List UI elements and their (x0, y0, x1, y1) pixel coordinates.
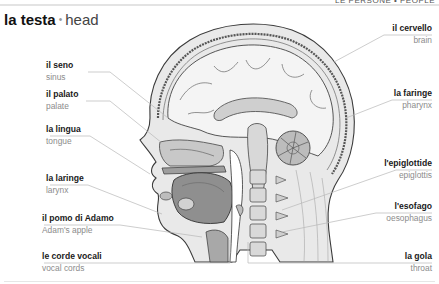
label-english: brain (392, 34, 432, 46)
label-tongue: la lingua tongue (46, 123, 81, 147)
label-italian: il cervello (392, 22, 432, 34)
label-italian: il pomo di Adamo (42, 212, 114, 224)
label-throat: la gola throat (405, 250, 432, 274)
label-adams-apple: il pomo di Adamo Adam's apple (42, 212, 114, 236)
label-italian: il seno (46, 59, 73, 71)
label-brain: il cervello brain (392, 22, 432, 46)
label-italian: le corde vocali (42, 250, 102, 262)
label-italian: il palato (46, 88, 78, 100)
label-palate: il palato palate (46, 88, 78, 112)
label-italian: la lingua (46, 123, 81, 135)
label-english: throat (405, 262, 432, 274)
label-english: pharynx (394, 99, 432, 111)
label-italian: l'esofago (386, 200, 432, 212)
bottom-rule (4, 281, 435, 282)
label-english: sinus (46, 71, 73, 83)
label-epiglottis: l'epiglottide epiglottis (384, 157, 432, 181)
label-oesophagus: l'esofago oesophagus (386, 200, 432, 224)
label-sinus: il seno sinus (46, 59, 73, 83)
label-italian: la laringe (46, 172, 84, 184)
label-english: epiglottis (384, 169, 432, 181)
cerebellum (276, 131, 310, 165)
label-english: palate (46, 100, 78, 112)
label-italian: l'epiglottide (384, 157, 432, 169)
label-english: Adam's apple (42, 224, 114, 236)
label-english: oesophagus (386, 212, 432, 224)
label-vocal-cords: le corde vocali vocal cords (42, 250, 102, 274)
label-italian: la faringe (394, 87, 432, 99)
label-larynx: la laringe larynx (46, 172, 84, 196)
label-english: vocal cords (42, 262, 102, 274)
label-english: larynx (46, 184, 84, 196)
label-english: tongue (46, 135, 81, 147)
label-pharynx: la faringe pharynx (394, 87, 432, 111)
label-italian: la gola (405, 250, 432, 262)
